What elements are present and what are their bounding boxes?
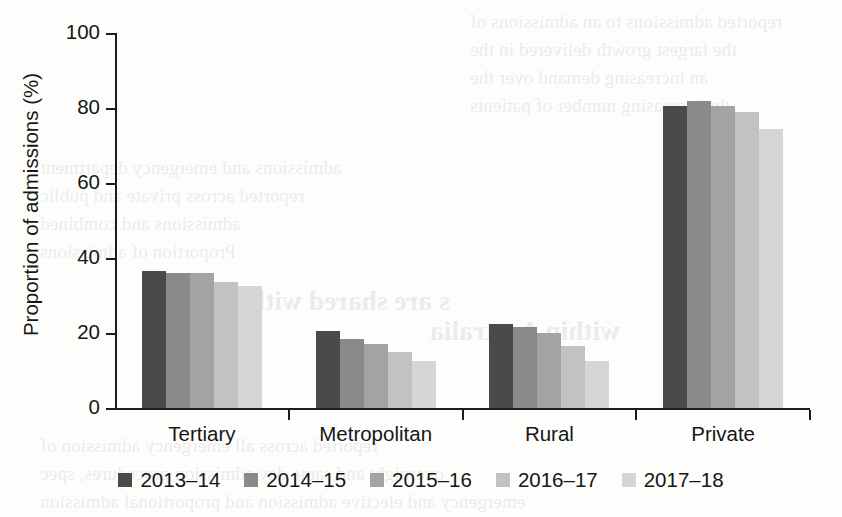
x-axis-tick: [635, 410, 637, 420]
legend-label: 2017–18: [644, 468, 724, 492]
bar: [735, 112, 759, 408]
legend-swatch-icon: [370, 473, 384, 487]
legend-item: 2016–17: [496, 468, 598, 492]
y-axis-tick-label: 80: [77, 95, 100, 119]
x-axis-tick: [462, 410, 464, 420]
legend-label: 2016–17: [518, 468, 598, 492]
legend-label: 2015–16: [392, 468, 472, 492]
bar: [388, 352, 412, 408]
y-axis-tick-label: 100: [66, 20, 100, 44]
bar: [190, 273, 214, 408]
legend-swatch-icon: [622, 473, 636, 487]
bar: [663, 106, 687, 408]
x-axis-category-label: Rural: [463, 422, 637, 446]
y-axis-tick: 60: [106, 183, 115, 185]
legend-item: 2014–15: [244, 468, 346, 492]
bar: [585, 361, 609, 408]
bar: [711, 106, 735, 408]
legend-swatch-icon: [118, 473, 132, 487]
legend-item: 2017–18: [622, 468, 724, 492]
bar: [364, 344, 388, 408]
bar: [561, 346, 585, 408]
x-axis-category-label: Private: [636, 422, 810, 446]
bar-chart-figure: Proportion of admissions (%) 02040608010…: [0, 0, 842, 517]
chart-legend: 2013–142014–152015–162016–172017–18: [0, 468, 842, 492]
legend-label: 2013–14: [140, 468, 220, 492]
y-axis-tick: 80: [106, 108, 115, 110]
bar: [166, 273, 190, 408]
y-axis-tick: 100: [106, 33, 115, 35]
y-axis-tick: 40: [106, 258, 115, 260]
bar: [142, 271, 166, 408]
y-axis-tick-label: 20: [77, 320, 100, 344]
x-axis-tick: [288, 410, 290, 420]
bar: [316, 331, 340, 408]
x-axis-category-label: Tertiary: [115, 422, 289, 446]
bar: [412, 361, 436, 408]
bar: [687, 101, 711, 409]
bar: [214, 282, 238, 408]
y-axis-tick-label: 0: [89, 395, 100, 419]
bar: [759, 129, 783, 408]
bar: [489, 324, 513, 408]
y-axis-title: Proportion of admissions (%): [14, 17, 48, 392]
legend-swatch-icon: [244, 473, 258, 487]
bar-group-tertiary: Tertiary: [115, 33, 289, 408]
legend-swatch-icon: [496, 473, 510, 487]
bar-group-metropolitan: Metropolitan: [289, 33, 463, 408]
y-axis-tick-label: 40: [77, 245, 100, 269]
bar: [513, 327, 537, 408]
legend-label: 2014–15: [266, 468, 346, 492]
bar-group-rural: Rural: [463, 33, 637, 408]
plot-area: 020406080100 TertiaryMetropolitanRuralPr…: [115, 33, 810, 408]
y-axis-tick: 0: [106, 408, 115, 410]
y-axis-tick: 20: [106, 333, 115, 335]
bar: [340, 339, 364, 408]
x-axis-category-label: Metropolitan: [289, 422, 463, 446]
y-axis-tick-label: 60: [77, 170, 100, 194]
legend-item: 2015–16: [370, 468, 472, 492]
x-axis-tick: [809, 410, 811, 420]
bar: [537, 333, 561, 408]
legend-item: 2013–14: [118, 468, 220, 492]
bar: [238, 286, 262, 408]
bar-group-private: Private: [636, 33, 810, 408]
